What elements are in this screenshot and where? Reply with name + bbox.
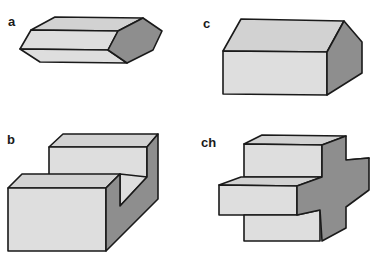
shapes-figure bbox=[0, 0, 375, 256]
hexagonal-prism bbox=[20, 17, 162, 63]
house-prism bbox=[223, 19, 362, 95]
cross-prism bbox=[219, 135, 369, 241]
notched-block bbox=[8, 134, 158, 251]
